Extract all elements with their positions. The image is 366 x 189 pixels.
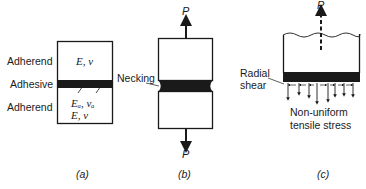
adherend-bottom-label: Adherend [7,101,53,113]
adhesive-properties: Eₐ, νₐ [71,97,95,109]
adhesive-label: Adhesive [10,78,53,90]
load-p-top: P [182,5,189,17]
panel-c-specimen [268,10,360,103]
adherend-top-label: Adherend [7,55,53,67]
panel-b-specimen [146,20,213,147]
panel-b-caption: (b) [178,168,191,180]
adherend-top-properties: E, ν [76,55,93,67]
radial-shear-label-1: Radial [240,67,270,79]
panel-a-caption: (a) [76,168,89,180]
shear-leader [268,78,284,84]
adhesive-layer [283,72,360,82]
panel-c-caption: (c) [317,168,329,180]
stress-label-2: tensile stress [290,119,351,131]
necked-adhesive [159,81,213,92]
radial-shear-label-2: shear [240,79,266,91]
load-p-top-c: P [317,0,324,11]
tensile-stress-arrows [288,83,353,103]
load-p-bottom: P [182,148,189,160]
stress-label-1: Non-uniform [290,106,348,118]
diagram-canvas [0,0,366,189]
adhesive-layer [58,80,113,88]
necking-label: Necking [117,72,155,84]
adherend-bottom-properties: E, ν [71,109,88,121]
